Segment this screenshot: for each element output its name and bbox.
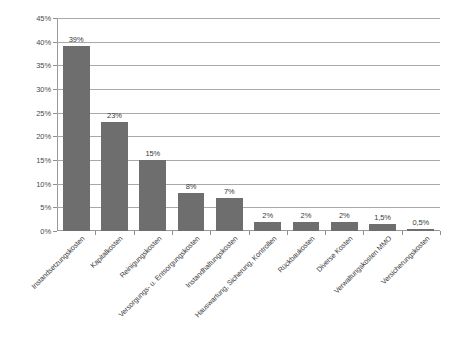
- bar: [254, 222, 281, 231]
- bar: [216, 198, 243, 231]
- y-tick-label: 20%: [36, 132, 51, 141]
- y-tick-label: 10%: [36, 179, 51, 188]
- bar-chart: 0%5%10%15%20%25%30%35%40%45% 39%23%15%8%…: [0, 0, 457, 343]
- bar-value-label: 2%: [301, 211, 312, 220]
- y-tick-label: 25%: [36, 108, 51, 117]
- bar-value-label: 0,5%: [412, 218, 429, 227]
- y-tick-label: 0%: [40, 227, 51, 236]
- bar-value-label: 23%: [107, 111, 122, 120]
- y-tick-label: 35%: [36, 61, 51, 70]
- x-axis-category-label: Instandsetzungskosten: [30, 234, 87, 291]
- x-axis-category-label: Hauswartung, Sicherung, Kontrollen: [193, 234, 278, 319]
- bar: [407, 229, 434, 231]
- bar-value-label: 8%: [186, 182, 197, 191]
- x-axis-labels: InstandsetzungskostenKapitalkostenReinig…: [57, 234, 457, 343]
- x-axis-category-label: Rückbaukosten: [276, 234, 316, 274]
- bar-value-label: 15%: [145, 149, 160, 158]
- bars-layer: 39%23%15%8%7%2%2%2%1,5%0,5%: [57, 18, 440, 231]
- bar: [293, 222, 320, 231]
- bar-value-label: 39%: [69, 35, 84, 44]
- bar: [178, 193, 205, 231]
- bar-value-label: 7%: [224, 187, 235, 196]
- plot-area: 0%5%10%15%20%25%30%35%40%45% 39%23%15%8%…: [57, 18, 440, 231]
- bar: [369, 224, 396, 231]
- bar-value-label: 1,5%: [374, 213, 391, 222]
- y-tick-label: 15%: [36, 156, 51, 165]
- y-tick-label: 30%: [36, 85, 51, 94]
- bar-value-label: 2%: [262, 211, 273, 220]
- bar-value-label: 2%: [339, 211, 350, 220]
- bar: [63, 46, 90, 231]
- bar: [139, 160, 166, 231]
- bar: [101, 122, 128, 231]
- y-tick-label: 5%: [40, 203, 51, 212]
- x-axis-category-label: Diverse Kosten: [315, 234, 355, 274]
- y-tick-label: 45%: [36, 14, 51, 23]
- x-axis-category-label: Kapitalkosten: [89, 234, 125, 270]
- y-tick-mark: [53, 231, 57, 232]
- bar: [331, 222, 358, 231]
- y-tick-label: 40%: [36, 37, 51, 46]
